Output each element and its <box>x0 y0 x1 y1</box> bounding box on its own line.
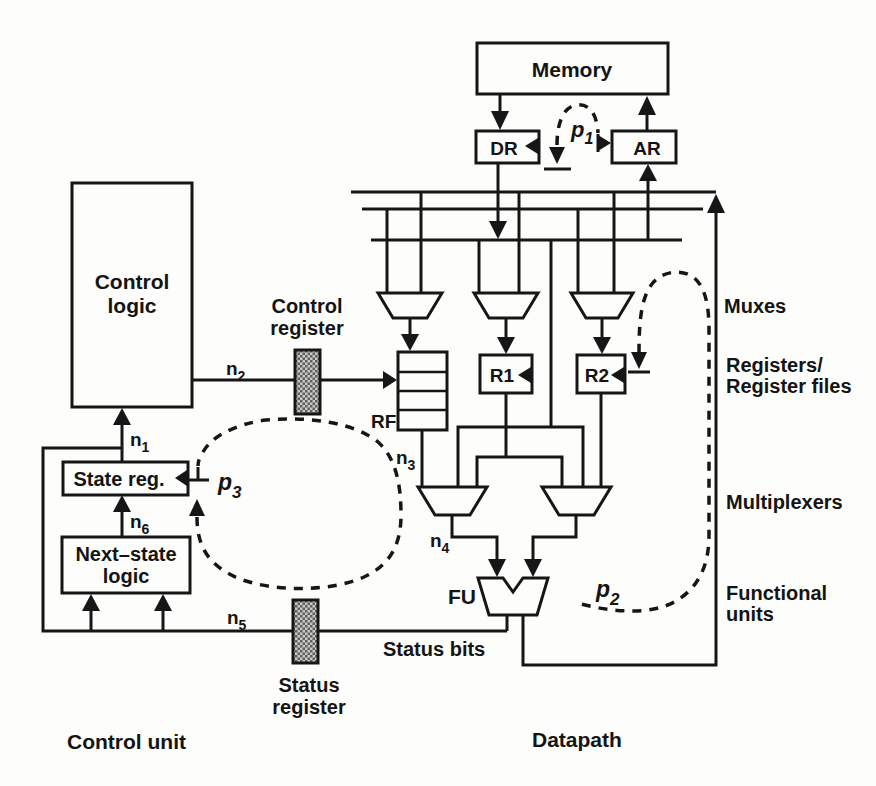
arrowhead-fu-right <box>524 559 542 577</box>
mux-lower-right <box>542 487 611 515</box>
arrowhead-into-ar <box>598 135 611 151</box>
arrowhead-dr-bus <box>489 221 507 239</box>
status-register-bar <box>293 600 318 663</box>
side-label-registers-2: Register files <box>726 375 852 397</box>
control-logic-label-2: logic <box>107 294 156 317</box>
p3-arrowhead <box>189 499 205 516</box>
p2-label: p2 <box>595 576 620 609</box>
p1-label: p1 <box>570 117 593 147</box>
side-label-registers-1: Registers/ <box>726 354 823 376</box>
p2-arrowhead <box>631 352 647 369</box>
side-label-multiplexers: Multiplexers <box>726 491 843 513</box>
arrowhead-into-r2 <box>593 337 611 354</box>
n3-label: n3 <box>396 447 416 473</box>
side-label-functional-1: Functional <box>726 582 827 604</box>
status-register-label-2: register <box>272 696 346 718</box>
arrowhead-into-dr <box>491 111 509 130</box>
mux-upper-middle <box>474 293 538 318</box>
section-label-control-unit: Control unit <box>67 730 186 753</box>
dr-label: DR <box>490 138 518 159</box>
wire-bridge-r1 <box>477 457 562 487</box>
status-bits-label: Status bits <box>383 638 485 660</box>
arrowhead-bus-ar <box>639 164 657 181</box>
arrowhead-n6 <box>113 495 131 512</box>
state-reg-label: State reg. <box>73 468 164 490</box>
arrowhead-into-r1 <box>497 337 515 354</box>
r2-label: R2 <box>585 365 609 386</box>
n4-label: n4 <box>430 530 450 556</box>
fu-shape <box>478 578 548 615</box>
control-register-bar <box>295 350 320 414</box>
arrowhead-n1 <box>113 408 131 425</box>
rf-label: RF <box>371 411 396 432</box>
arrowhead-fu-left <box>488 559 506 577</box>
p1-arrowhead <box>549 147 565 164</box>
fu-label: FU <box>448 585 476 608</box>
n6-label: n6 <box>130 511 150 537</box>
arrowhead-n2-rf <box>383 371 397 389</box>
next-state-label-2: logic <box>103 565 150 587</box>
control-logic-label-1: Control <box>95 270 170 293</box>
arrowhead-nsl-b <box>154 594 172 611</box>
diagram-canvas: Memory DR AR p1 p2 p3 Control logic Stat… <box>0 0 876 786</box>
mux-lower-left <box>418 487 487 515</box>
p2-loop <box>577 272 709 611</box>
arrowhead-into-rf <box>401 334 419 351</box>
section-label-datapath: Datapath <box>532 728 622 751</box>
side-label-functional-2: units <box>726 603 774 625</box>
memory-label: Memory <box>532 58 613 81</box>
block-diagram: Memory DR AR p1 p2 p3 Control logic Stat… <box>0 0 876 786</box>
p3-label: p3 <box>217 469 242 502</box>
r1-label: R1 <box>490 365 515 386</box>
n5-label: n5 <box>227 607 247 633</box>
p3-loop <box>197 419 401 589</box>
wire-muxR-fu <box>533 515 576 560</box>
wire-muxL-fu <box>452 515 497 560</box>
arrowhead-into-memory <box>638 96 656 115</box>
ar-label: AR <box>633 138 661 159</box>
next-state-label-1: Next–state <box>75 543 176 565</box>
status-register-label-1: Status <box>278 674 339 696</box>
mux-upper-right <box>571 293 633 318</box>
arrowhead-nsl-a <box>82 594 100 611</box>
arrowhead-feedback-bus <box>707 194 725 213</box>
n1-label: n1 <box>130 429 150 455</box>
side-label-muxes: Muxes <box>724 295 786 317</box>
control-register-label-1: Control <box>271 295 342 317</box>
control-register-label-2: register <box>270 317 344 339</box>
mux-upper-left <box>378 293 442 318</box>
